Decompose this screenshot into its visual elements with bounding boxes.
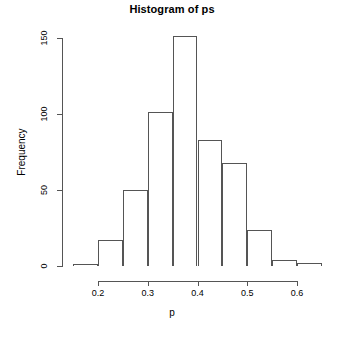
y-axis-tick-label: 0 xyxy=(38,253,50,279)
y-axis-tick-label: 50 xyxy=(38,177,50,203)
y-axis-tick xyxy=(57,38,62,39)
histogram-bar xyxy=(247,230,272,266)
x-axis-tick xyxy=(247,281,248,286)
histogram-bar xyxy=(198,140,223,266)
x-axis-tick-label: 0.6 xyxy=(282,288,312,298)
histogram-bar xyxy=(297,263,322,266)
x-axis-tick xyxy=(98,281,99,286)
histogram-bar xyxy=(123,190,148,266)
y-axis-tick xyxy=(57,266,62,267)
histogram-bar xyxy=(222,163,247,266)
x-axis-title: p xyxy=(0,307,344,318)
histogram-bar xyxy=(173,36,198,266)
plot-area: 0501001500.20.30.40.50.6 xyxy=(0,0,344,341)
histogram-bar xyxy=(98,240,123,266)
histogram-chart: Histogram of ps 0501001500.20.30.40.50.6… xyxy=(0,0,344,341)
x-axis-tick-label: 0.5 xyxy=(232,288,262,298)
x-axis-tick-label: 0.2 xyxy=(83,288,113,298)
y-axis-tick xyxy=(57,190,62,191)
x-axis-tick-label: 0.3 xyxy=(133,288,163,298)
x-axis-tick-label: 0.4 xyxy=(183,288,213,298)
x-axis-tick xyxy=(297,281,298,286)
histogram-bar xyxy=(148,112,173,266)
y-axis-tick-label: 150 xyxy=(38,25,50,51)
y-axis-tick xyxy=(57,114,62,115)
x-axis-tick xyxy=(148,281,149,286)
y-axis-line xyxy=(62,38,63,267)
y-axis-tick-label: 100 xyxy=(38,101,50,127)
y-axis-title: Frequency xyxy=(16,92,28,212)
x-axis-tick xyxy=(198,281,199,286)
histogram-bar xyxy=(73,264,98,266)
histogram-bar xyxy=(272,260,297,266)
